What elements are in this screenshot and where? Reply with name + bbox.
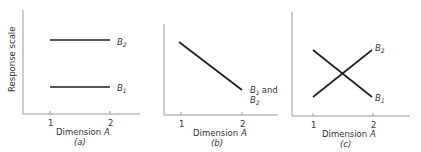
label-c-b2: B2 [375, 43, 385, 54]
xlabel-a: Dimension A [56, 127, 110, 137]
panel-label-a: (a) [74, 137, 86, 147]
panel-b: B1and B2 1 2 Dimension A (b) [164, 24, 278, 148]
ticklabel-b-1: 1 [179, 119, 184, 129]
label-a-b1: B1 [117, 83, 127, 94]
ticklabel-a-1: 1 [48, 118, 53, 128]
xlabel-b: Dimension A [193, 128, 247, 138]
label-a-b2: B2 [117, 37, 127, 48]
panel-label-c: (c) [340, 139, 351, 149]
line-b-b1b2 [179, 42, 242, 90]
label-c-b1: B1 [375, 93, 385, 104]
axes-b [164, 24, 278, 115]
xlabel-c: Dimension A [322, 129, 376, 139]
ticklabel-c-1: 1 [311, 120, 316, 130]
panel-label-b: (b) [211, 138, 223, 148]
axes-c [292, 12, 410, 116]
label-b-b2: B2 [250, 95, 260, 106]
axes-a [23, 10, 140, 114]
ylabel: Response scale [7, 27, 17, 92]
figure: B2 B1 1 2 Dimension A (a) Response scale… [0, 0, 421, 152]
panel-a: B2 B1 1 2 Dimension A (a) Response scale [7, 10, 140, 147]
panel-c: B2 B1 1 2 Dimension A (c) [292, 12, 410, 149]
